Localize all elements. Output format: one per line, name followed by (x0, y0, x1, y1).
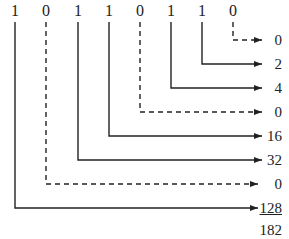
connector-bit-7 (202, 22, 262, 64)
connector-bit-1 (15, 22, 258, 208)
connector-bit-8 (233, 22, 262, 40)
binary-conversion-diagram: 1 0 1 1 0 1 1 0 0 2 4 0 16 32 0 128 182 (0, 0, 289, 239)
bit-8: 0 (226, 2, 240, 20)
connector-bit-5 (140, 22, 262, 112)
place-value-2: 2 (275, 56, 283, 72)
sum-total: 182 (260, 222, 283, 238)
connector-lines (0, 0, 289, 239)
bit-6: 1 (164, 2, 178, 20)
place-value-16: 16 (267, 128, 282, 144)
bit-3: 1 (71, 2, 85, 20)
place-value-1: 0 (275, 32, 283, 48)
place-value-8: 0 (275, 104, 283, 120)
place-value-64: 0 (275, 176, 283, 192)
place-value-4: 4 (275, 80, 283, 96)
bit-7: 1 (195, 2, 209, 20)
connector-bit-3 (78, 22, 262, 160)
connector-bit-4 (109, 22, 262, 136)
bit-4: 1 (102, 2, 116, 20)
connector-bit-6 (171, 22, 262, 88)
bit-2: 0 (39, 2, 53, 20)
place-value-32: 32 (267, 152, 282, 168)
bit-5: 0 (133, 2, 147, 20)
place-value-128: 128 (260, 200, 283, 216)
bit-1: 1 (8, 2, 22, 20)
